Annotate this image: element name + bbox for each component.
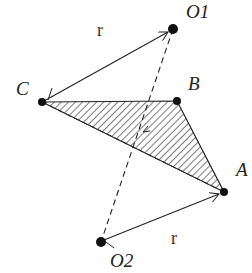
label-a: A [234, 159, 248, 180]
point-o2 [96, 237, 106, 247]
point-o1 [168, 24, 178, 34]
label-r-bottom: r [171, 228, 177, 248]
label-r-top: r [97, 20, 103, 40]
vector-c-o1 [44, 32, 168, 101]
vector-o2-a [104, 194, 219, 240]
o2-tick-icon [106, 242, 114, 248]
point-a [220, 188, 228, 196]
point-c [38, 98, 46, 106]
point-b [173, 97, 181, 105]
label-o2: O2 [110, 250, 134, 271]
label-b: B [188, 73, 200, 94]
label-c: C [16, 78, 29, 99]
geometry-diagram: O1 C B A O2 r r [0, 0, 252, 273]
label-o1: O1 [186, 1, 209, 22]
